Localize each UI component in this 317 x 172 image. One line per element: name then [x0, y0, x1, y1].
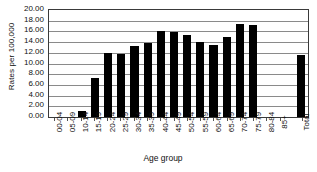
bar-slot — [115, 10, 128, 117]
bar-slot — [88, 10, 101, 117]
x-label-slot: 20-24 — [101, 121, 114, 152]
bar-slot — [273, 10, 286, 117]
bar[interactable] — [144, 43, 152, 117]
bar[interactable] — [130, 46, 138, 117]
bar[interactable] — [297, 55, 305, 117]
bar[interactable] — [249, 25, 257, 117]
y-axis-tick-label: 0.00 — [8, 112, 44, 120]
x-axis: 00-0405-0910-1415-1920-2425-2930-3435-39… — [48, 118, 309, 152]
x-label-slot: 40-44 — [154, 121, 167, 152]
x-label-slot: 10-14 — [75, 121, 88, 152]
bar-slot — [246, 10, 259, 117]
bar[interactable] — [236, 24, 244, 117]
y-axis-tick-label: 2.00 — [8, 101, 44, 109]
x-label-slot: 35-39 — [141, 121, 154, 152]
bar-chart: Rates per 100,000 20.0018.0016.0014.0012… — [0, 0, 317, 172]
bar-slot — [154, 10, 167, 117]
x-label-slot: 25-29 — [114, 121, 127, 152]
x-axis-title: Age group — [48, 153, 278, 163]
y-axis-tick-label: 6.00 — [8, 80, 44, 88]
bar-slot — [233, 10, 246, 117]
bar-slot — [295, 10, 308, 117]
x-label-slot: 55-59 — [194, 121, 207, 152]
bar[interactable] — [117, 54, 125, 117]
x-axis-tick-label: Total — [302, 114, 311, 131]
bar-slot — [260, 10, 273, 117]
y-axis-tick-label: 20.00 — [8, 5, 44, 13]
y-axis-tick-label: 16.00 — [8, 26, 44, 34]
bar-slot — [207, 10, 220, 117]
x-label-slot: 50-54 — [181, 121, 194, 152]
bar[interactable] — [223, 37, 231, 117]
x-label-slot: 80-84 — [260, 121, 273, 152]
x-label-slot: 45-49 — [167, 121, 180, 152]
y-axis-tick-labels: 20.0018.0016.0014.0012.0010.008.006.004.… — [8, 9, 44, 118]
x-label-slot: 65-69 — [220, 121, 233, 152]
x-label-slot: 30-34 — [128, 121, 141, 152]
bar-group-separator — [286, 10, 295, 117]
bar-slot — [167, 10, 180, 117]
bar[interactable] — [104, 53, 112, 117]
x-label-slot: 05-09 — [61, 121, 74, 152]
x-label-slot: 00-04 — [48, 121, 61, 152]
y-axis-tick-label: 18.00 — [8, 16, 44, 24]
x-label-slot: 75-79 — [247, 121, 260, 152]
y-axis-tick-label: 12.00 — [8, 48, 44, 56]
x-label-slot: Total — [296, 121, 309, 152]
x-label-slot: 85+ — [274, 121, 287, 152]
bar-slot — [128, 10, 141, 117]
y-axis-tick-label: 8.00 — [8, 69, 44, 77]
bar-slot — [75, 10, 88, 117]
bar-slot — [141, 10, 154, 117]
bar[interactable] — [209, 45, 217, 117]
x-label-slot: 60-64 — [207, 121, 220, 152]
bar-slot — [194, 10, 207, 117]
plot-area — [48, 9, 309, 118]
bar-slot — [49, 10, 62, 117]
x-axis-tick-label: 85+ — [280, 115, 289, 129]
x-axis-tick-labels: 00-0405-0910-1415-1920-2425-2930-3435-39… — [48, 121, 309, 152]
x-label-slot: 15-19 — [88, 121, 101, 152]
bar[interactable] — [183, 35, 191, 117]
bar-slot — [181, 10, 194, 117]
y-axis-tick-label: 14.00 — [8, 37, 44, 45]
y-axis-tick-label: 10.00 — [8, 59, 44, 67]
x-label-slot: 70-74 — [234, 121, 247, 152]
bar-slot — [102, 10, 115, 117]
bar[interactable] — [157, 31, 165, 117]
bar[interactable] — [170, 32, 178, 117]
bar[interactable] — [196, 42, 204, 117]
bar-slot — [220, 10, 233, 117]
bar-slot — [62, 10, 75, 117]
bars-container — [49, 10, 308, 117]
y-axis-tick-label: 4.00 — [8, 91, 44, 99]
